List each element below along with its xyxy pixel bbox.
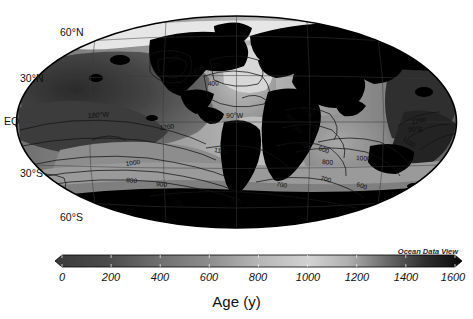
colorbar-tick-label: 200	[102, 271, 120, 283]
colorbar-tick-label: 0	[59, 271, 65, 283]
contour-label: 1000	[356, 154, 371, 162]
longitude-label-180w: 180°W	[88, 111, 110, 119]
colorbar-tick-label: 1400	[394, 271, 418, 283]
longitude-label-90e: 90°E	[408, 126, 424, 133]
colorbar-tick-label: 400	[151, 271, 169, 283]
lat-label-30s: 30°S	[20, 167, 43, 179]
colorbar-tick-label: 600	[200, 271, 218, 283]
colorbar-axis-title: Age (y)	[0, 293, 473, 310]
contour-label: 800	[322, 158, 334, 166]
longitude-label-0: 0°	[308, 112, 315, 119]
colorbar-panel: Ocean Data View	[0, 245, 473, 319]
contour-label: 900	[156, 180, 168, 188]
lat-label-30n: 30°N	[20, 72, 43, 84]
colorbar-tick-label: 1000	[296, 271, 320, 283]
contour-label: 400	[208, 79, 220, 87]
longitude-label-90w: 90°W	[226, 112, 244, 119]
colorbar-tick-label: 1200	[345, 271, 369, 283]
colorbar-tick-label: 800	[249, 271, 267, 283]
lat-label-60s: 60°S	[60, 211, 83, 223]
lat-label-60n: 60°N	[60, 26, 83, 38]
world-map-panel: 1500 1400 1200 1100 1000 900 800 700 600…	[0, 0, 473, 245]
contour-label: 300	[211, 61, 223, 69]
contour-label: 800	[126, 176, 138, 184]
lat-label-eq: EQ	[4, 115, 19, 127]
colorbar-tick-label: 1600	[441, 271, 465, 283]
